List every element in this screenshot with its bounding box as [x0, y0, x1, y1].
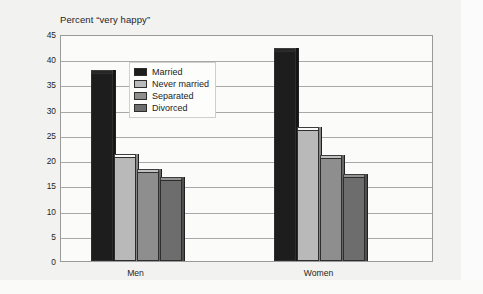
bar-side-bevel	[182, 177, 185, 261]
bar-face	[343, 177, 365, 261]
legend-swatch-icon	[134, 92, 147, 100]
bar-face	[137, 172, 159, 261]
legend-item: Separated	[134, 90, 209, 102]
y-axis-tick-label: 25	[34, 131, 56, 141]
scanned-page: Percent “very happy” 051015202530354045 …	[0, 0, 483, 294]
bar	[274, 51, 296, 261]
legend-swatch-icon	[134, 80, 147, 88]
chart-legend: MarriedNever marriedSeparatedDivorced	[129, 62, 216, 118]
bar-side-bevel	[365, 174, 368, 261]
bar-face	[274, 51, 296, 261]
gridline	[61, 61, 432, 62]
bar-face	[297, 130, 319, 261]
bar-face	[91, 73, 113, 261]
bar	[160, 180, 182, 261]
bar-face	[320, 158, 342, 261]
legend-item-label: Separated	[152, 90, 194, 102]
y-axis-tick-label: 35	[34, 80, 56, 90]
bar-top-bevel	[114, 154, 136, 157]
y-axis-tick-label: 0	[34, 257, 56, 267]
y-axis-tick-label: 10	[34, 207, 56, 217]
legend-item-label: Never married	[152, 78, 209, 90]
y-axis-tick-label: 30	[34, 106, 56, 116]
bar-top-bevel	[343, 174, 365, 177]
y-axis-tick-labels: 051015202530354045	[30, 35, 56, 262]
gridline	[61, 86, 432, 87]
gridline	[61, 137, 432, 138]
plot-area	[60, 35, 433, 262]
bar	[320, 158, 342, 261]
x-axis-group-label: Women	[304, 268, 333, 278]
bar-top-bevel	[137, 169, 159, 172]
legend-swatch-icon	[134, 68, 147, 76]
bar-top-bevel	[297, 127, 319, 130]
bar-top-bevel	[274, 48, 296, 51]
y-axis-tick-label: 45	[34, 30, 56, 40]
bar-face	[160, 180, 182, 261]
bar	[137, 172, 159, 261]
legend-swatch-icon	[134, 104, 147, 112]
bar-chart-figure: Percent “very happy” 051015202530354045 …	[0, 0, 483, 294]
legend-item: Never married	[134, 78, 209, 90]
x-axis-group-label: Men	[127, 268, 144, 278]
gridline	[61, 112, 432, 113]
bar	[114, 157, 136, 261]
bar-top-bevel	[91, 70, 113, 73]
y-axis-tick-label: 40	[34, 55, 56, 65]
y-axis-tick-label: 20	[34, 156, 56, 166]
y-axis-title: Percent “very happy”	[60, 14, 150, 25]
bar	[297, 130, 319, 261]
bar-top-bevel	[320, 155, 342, 158]
legend-item: Divorced	[134, 102, 209, 114]
y-axis-tick-label: 5	[34, 232, 56, 242]
legend-item: Married	[134, 66, 209, 78]
legend-item-label: Divorced	[152, 102, 188, 114]
bar-top-bevel	[160, 177, 182, 180]
bar-face	[114, 157, 136, 261]
y-axis-tick-label: 15	[34, 181, 56, 191]
bar	[91, 73, 113, 261]
bar	[343, 177, 365, 261]
legend-item-label: Married	[152, 66, 183, 78]
